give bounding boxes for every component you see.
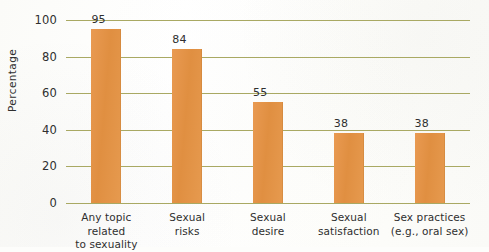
bar-value-label: 55 xyxy=(253,86,267,99)
x-category-label: Sexual satisfaction xyxy=(308,211,389,238)
bar[interactable]: 95 xyxy=(91,29,121,203)
bar-value-label: 38 xyxy=(415,117,429,130)
y-tick-label: 60 xyxy=(42,86,57,100)
bar-group: 55 xyxy=(228,102,309,203)
bar-group: 95 xyxy=(66,29,147,203)
x-category-label: Sex practices (e.g., oral sex) xyxy=(389,211,470,238)
bar-value-label: 95 xyxy=(91,13,105,26)
bar-group: 38 xyxy=(389,133,470,203)
y-axis-title: Percentage xyxy=(6,49,18,112)
x-category-label: Any topic related to sexuality xyxy=(66,211,147,252)
axis-baseline xyxy=(66,203,470,204)
y-tick-label: 0 xyxy=(49,196,57,210)
bar-group: 84 xyxy=(147,49,228,203)
y-tick-label: 40 xyxy=(42,123,57,137)
y-tick-label: 80 xyxy=(42,50,57,64)
y-tick-label: 20 xyxy=(42,159,57,173)
bar[interactable]: 38 xyxy=(415,133,445,203)
bar-group: 38 xyxy=(308,133,389,203)
bar[interactable]: 55 xyxy=(253,102,283,203)
gridline xyxy=(66,20,470,21)
bar[interactable]: 38 xyxy=(334,133,364,203)
bar-value-label: 84 xyxy=(172,33,186,46)
bar-value-label: 38 xyxy=(334,117,348,130)
x-category-label: Sexual desire xyxy=(228,211,309,238)
x-category-label: Sexual risks xyxy=(147,211,228,238)
y-tick-label: 100 xyxy=(34,13,57,27)
plot-area: 0204060801009584553838 xyxy=(66,20,470,203)
bar[interactable]: 84 xyxy=(172,49,202,203)
